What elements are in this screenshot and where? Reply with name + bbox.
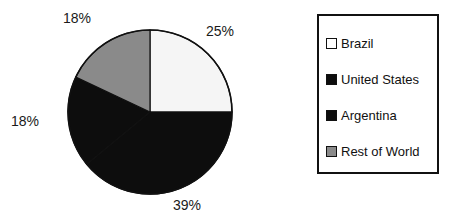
legend-swatch-icon [326, 110, 337, 121]
legend-item-rest-of-world[interactable]: Rest of World [326, 133, 437, 169]
legend-item-brazil[interactable]: Brazil [326, 25, 437, 61]
legend-item-argentina[interactable]: Argentina [326, 97, 437, 133]
legend-item-label: Brazil [341, 37, 374, 50]
slice-label-brazil: 25% [206, 23, 234, 39]
legend-swatch-icon [326, 146, 337, 157]
pie-slice[interactable] [150, 30, 232, 112]
pie-chart-svg [0, 0, 300, 223]
chart-legend: Brazil United States Argentina Rest of W… [317, 14, 439, 174]
slice-label-argentina: 18% [11, 113, 39, 129]
legend-item-label: Argentina [341, 109, 397, 122]
legend-swatch-icon [326, 38, 337, 49]
legend-item-label: Rest of World [341, 145, 420, 158]
pie-slice-group [68, 30, 232, 194]
slice-label-united-states: 39% [173, 197, 201, 213]
legend-item-label: United States [341, 73, 419, 86]
legend-item-united-states[interactable]: United States [326, 61, 437, 97]
slice-label-rest-of-world: 18% [63, 10, 91, 26]
pie-chart-plot-area: 18% 25% 18% 39% [0, 0, 300, 223]
legend-swatch-icon [326, 74, 337, 85]
pie-chart-figure: 18% 25% 18% 39% Brazil United States Arg… [0, 0, 469, 223]
